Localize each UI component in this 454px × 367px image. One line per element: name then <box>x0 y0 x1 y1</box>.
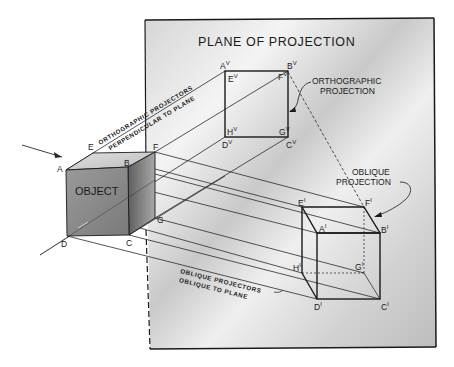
ortho-g: G <box>279 127 286 137</box>
vertex-g: G <box>157 215 164 225</box>
vertex-b: B <box>124 158 130 168</box>
vertex-f: F <box>153 142 158 152</box>
vertex-d: D <box>61 239 67 249</box>
vertex-a: A <box>57 164 63 174</box>
svg-text:PROJECTION: PROJECTION <box>336 177 391 187</box>
vertex-e: E <box>88 142 94 152</box>
object-label: OBJECT <box>75 185 119 197</box>
plane-title: PLANE OF PROJECTION <box>198 35 355 49</box>
svg-text:ORTHOGRAPHIC: ORTHOGRAPHIC <box>312 76 381 86</box>
svg-text:OBLIQUE: OBLIQUE <box>352 167 390 177</box>
svg-text:PROJECTION: PROJECTION <box>320 86 375 96</box>
projection-diagram: OBJECT A E F B G D C PLANE OF PROJECTION… <box>0 0 454 367</box>
vertex-c: C <box>126 238 132 248</box>
incoming-arrow <box>22 145 62 158</box>
